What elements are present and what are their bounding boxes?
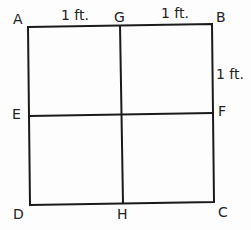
- dimension-label-bf: 1 ft.: [216, 67, 244, 81]
- vertex-label-g: G: [114, 10, 125, 24]
- vertex-label-b: B: [216, 10, 226, 24]
- vertex-label-e: E: [12, 107, 21, 121]
- square-diagram: [0, 0, 251, 230]
- vertex-label-c: C: [218, 205, 228, 219]
- dimension-label-ag: 1 ft.: [61, 8, 89, 22]
- vertex-label-d: D: [13, 207, 24, 221]
- dimension-label-gb: 1 ft.: [161, 6, 189, 20]
- vertex-label-f: F: [218, 104, 226, 118]
- vertex-label-a: A: [13, 12, 23, 26]
- vertex-label-h: H: [117, 207, 128, 221]
